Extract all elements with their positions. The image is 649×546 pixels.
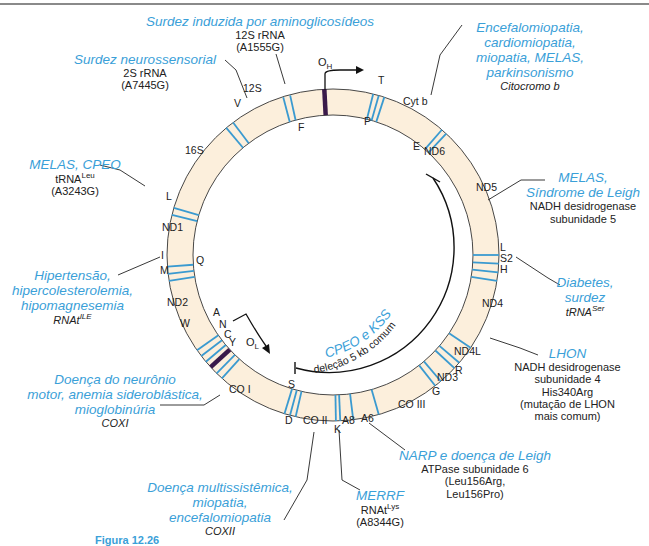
gene-line: subunidade 5: [518, 213, 648, 225]
segment-nd2: ND2: [167, 296, 188, 308]
trna-g: G: [432, 385, 440, 397]
segment-cytb: Cyt b: [403, 95, 428, 107]
disease-line: encefalomiopatia: [145, 510, 295, 525]
origin-h-band: [324, 89, 325, 115]
disease-name: NARP e doença de Leigh: [395, 448, 555, 463]
annotation-nd5: MELAS, Síndrome de Leigh NADH desidrogen…: [518, 170, 648, 225]
gene-name: RNAtLys: [350, 503, 410, 516]
segment-coiii: CO III: [398, 398, 425, 410]
gene-line: ATPase subunidade 6: [395, 463, 555, 475]
annotation-coxii: Doença multissistêmica, miopatia, encefa…: [145, 480, 295, 538]
annotation-hypertension: Hipertensão, hipercolesterolemia, hipoma…: [5, 268, 140, 326]
trna-k: K: [334, 423, 341, 435]
disease-line: Doença multissistêmica,: [145, 480, 295, 495]
trna-p: P: [364, 115, 371, 127]
disease-line: Encefalomiopatia,: [455, 20, 605, 35]
trna-s: S: [288, 378, 295, 390]
trna-y: Y: [229, 336, 236, 348]
disease-line: hipomagnesemia: [5, 298, 140, 313]
gene-name: 12S rRNA: [130, 29, 390, 41]
trna-l: L: [166, 190, 172, 202]
disease-line: parkinsonismo: [455, 65, 605, 80]
segment-16s: 16S: [185, 144, 204, 156]
gene-line: subunidade 4: [500, 373, 635, 385]
disease-line: hipercolesterolemia,: [5, 283, 140, 298]
disease-line: Hipertensão,: [5, 268, 140, 283]
annotation-merrf: MERRF RNAtLys (A8344G): [350, 488, 410, 528]
segment-12s: 12S: [243, 82, 262, 94]
gene-line: (Leu156Arg,: [395, 475, 555, 487]
disease-line: miopatia, MELAS,: [455, 50, 605, 65]
segment-a8: A8: [342, 414, 355, 426]
gene-name: RNAtILE: [5, 313, 140, 326]
disease-line: surdez: [545, 290, 625, 305]
annotation-coxi: Doença do neurônio motor, anemia siderob…: [25, 372, 205, 430]
gene-name: tRNALeu: [25, 172, 125, 185]
segment-coi: CO I: [229, 383, 251, 395]
gene-line: NADH desidrogenase: [518, 200, 648, 212]
annotation-melas-cpeo: MELAS, CPEO tRNALeu (A3243G): [25, 157, 125, 197]
segment-coii: CO II: [303, 414, 328, 426]
gene-line: His340Arg: [500, 386, 635, 398]
gene-name: Citocromo b: [455, 80, 605, 92]
trna-v: V: [234, 97, 241, 109]
trna-h: H: [500, 263, 508, 275]
segment-nd5: ND5: [476, 181, 497, 193]
annotation-sensorineural: Surdez neurossensorial 2S rRNA (A7445G): [60, 52, 230, 92]
disease-line: Doença do neurônio: [25, 372, 205, 387]
origin-h-arrow: [325, 70, 358, 90]
disease-line: miopatia,: [145, 495, 295, 510]
segment-nd6: ND6: [424, 145, 445, 157]
disease-name: LHON: [500, 346, 635, 361]
segment-nd4: ND4: [482, 297, 503, 309]
disease-line: cardiomiopatia,: [455, 35, 605, 50]
origin-l-label: OL: [246, 336, 260, 351]
trna-i: I: [161, 249, 164, 261]
annotation-aminoglycoside: Surdez induzida por aminoglicosídeos 12S…: [130, 14, 390, 54]
gene-name: COXII: [145, 525, 295, 537]
mutation: (A3243G): [25, 185, 125, 197]
gene-line: Leu156Pro): [395, 488, 555, 500]
trna-f: F: [298, 121, 304, 133]
origin-h-label: OH: [318, 56, 333, 71]
trna-w: W: [180, 317, 190, 329]
gene-name: COXI: [25, 417, 205, 429]
trna-q: Q: [196, 254, 204, 266]
disease-line: MELAS,: [518, 170, 648, 185]
segment-a6: A6: [361, 412, 374, 424]
gene-line: NADH desidrogenase: [500, 361, 635, 373]
trna-r: R: [455, 364, 463, 376]
disease-name: Surdez induzida por aminoglicosídeos: [130, 14, 390, 29]
gene-line: (mutação de LHON: [500, 398, 635, 410]
disease-name: Surdez neurossensorial: [60, 52, 230, 67]
disease-line: Síndrome de Leigh: [518, 185, 648, 200]
gene-name: 2S rRNA: [60, 67, 230, 79]
annotation-diabetes: Diabetes, surdez tRNASer: [545, 275, 625, 318]
annotation-cytb: Encefalomiopatia, cardiomiopatia, miopat…: [455, 20, 605, 93]
annotation-narp: NARP e doença de Leigh ATPase subunidade…: [395, 448, 555, 500]
trna-e: E: [413, 140, 420, 152]
trna-t: T: [378, 74, 385, 86]
disease-line: mioglobinúria: [25, 402, 205, 417]
disease-name: MERRF: [350, 488, 410, 503]
gene-name: tRNASer: [545, 305, 625, 318]
annotation-lhon: LHON NADH desidrogenase subunidade 4 His…: [500, 346, 635, 423]
gene-line: mais comum): [500, 410, 635, 422]
mutation: (A8344G): [350, 516, 410, 528]
disease-name: MELAS, CPEO: [25, 157, 125, 172]
disease-line: Diabetes,: [545, 275, 625, 290]
figure-caption: Figura 12.26: [95, 534, 159, 546]
segment-nd1: ND1: [162, 221, 183, 233]
trna-a: A: [213, 306, 220, 318]
disease-line: motor, anemia sideroblástica,: [25, 387, 205, 402]
trna-m: M: [160, 264, 169, 276]
mutation: (A7445G): [60, 79, 230, 91]
trna-d: D: [285, 414, 293, 426]
segment-nd4l: ND4L: [454, 345, 481, 357]
